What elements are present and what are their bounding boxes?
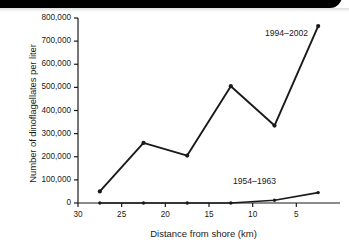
plot-area: 0100,000200,000300,000400,000500,000600,… (0, 0, 349, 248)
series-annotation-1994-2002: 1994–2002 (265, 28, 308, 38)
series-points-1994-2002 (98, 24, 321, 194)
x-tick-label: 15 (189, 210, 229, 219)
x-tick-label: 5 (276, 210, 316, 219)
x-tick-label: 10 (233, 210, 273, 219)
series-line-1994-2002 (100, 26, 318, 191)
series-annotation-1954-1963: 1954–1963 (233, 176, 276, 186)
x-axis-title: Distance from shore (km) (0, 228, 349, 239)
x-tick-label: 30 (58, 210, 98, 219)
y-axis-title: Number of dinoflagellates per liter (27, 19, 38, 209)
series-line-1954-1963 (100, 193, 318, 203)
chart-figure: 0100,000200,000300,000400,000500,000600,… (0, 0, 349, 248)
x-tick-label: 20 (145, 210, 185, 219)
x-tick-label: 25 (102, 210, 142, 219)
